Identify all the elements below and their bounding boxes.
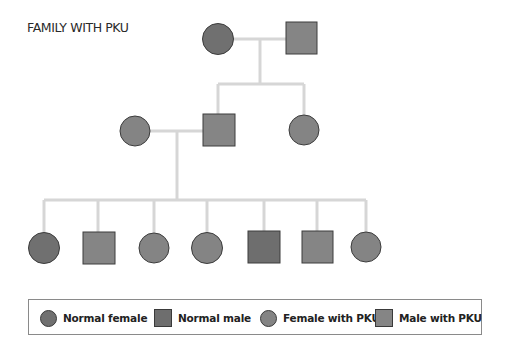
child-4-female-with-pku <box>192 233 223 264</box>
legend-item-male-with-pku: Male with PKU <box>375 300 482 336</box>
father-male-with-pku <box>203 114 235 146</box>
legend-item-normal-female: Normal female <box>40 300 147 336</box>
child-1-normal-female <box>29 233 60 264</box>
legend-item-normal-male: Normal male <box>154 300 251 336</box>
normal-male-icon <box>154 309 172 327</box>
aunt-female-with-pku <box>289 115 319 145</box>
female-with-pku-icon <box>260 310 277 327</box>
legend-item-female-with-pku: Female with PKU <box>260 300 380 336</box>
child-5-normal-male <box>248 231 280 263</box>
normal-female-icon <box>40 310 57 327</box>
child-3-female-with-pku <box>139 233 169 263</box>
legend-label: Female with PKU <box>283 312 380 324</box>
legend-label: Normal female <box>63 312 147 324</box>
child-6-male-with-pku <box>302 231 333 263</box>
legend-label: Normal male <box>178 312 251 324</box>
legend: Normal female Normal male Female with PK… <box>28 299 482 335</box>
male-with-pku-icon <box>375 309 393 327</box>
grandmother-normal-female <box>203 24 234 55</box>
child-7-female-with-pku <box>351 232 381 262</box>
mother-female-with-pku <box>120 116 150 146</box>
child-2-male-with-pku <box>83 232 115 264</box>
legend-label: Male with PKU <box>399 312 482 324</box>
grandfather-male-with-pku <box>286 22 317 54</box>
